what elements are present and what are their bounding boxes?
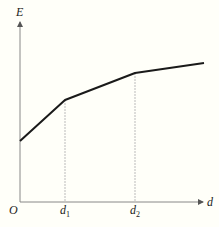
curve-e-vs-d [20,63,204,141]
chart-canvas: E O d d1 d2 [0,0,219,227]
tick-label-d1: d1 [60,203,70,219]
y-axis-label: E [15,5,24,19]
tick-label-d2: d2 [130,203,140,219]
origin-label: O [9,203,18,217]
x-axis-label: d [207,195,214,209]
